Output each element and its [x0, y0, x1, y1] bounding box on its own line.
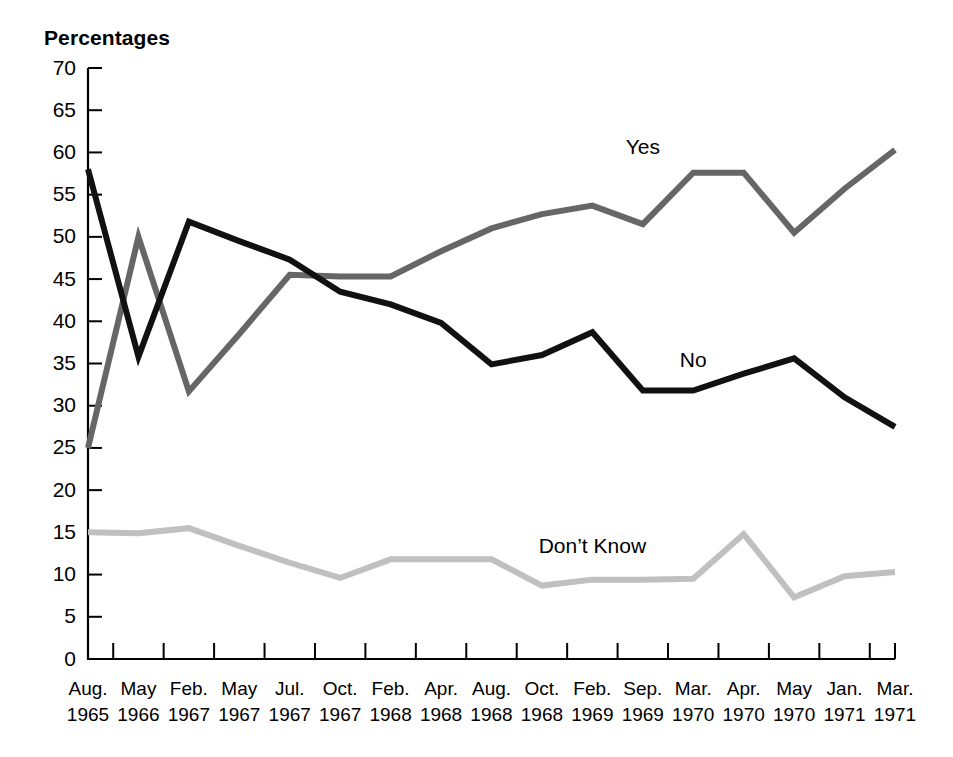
x-tick-label-year: 1970 — [773, 704, 815, 725]
x-tick-label-month: Oct. — [323, 678, 358, 699]
y-tick-label: 60 — [53, 140, 76, 163]
y-tick-label: 15 — [53, 520, 76, 543]
y-tick-label: 45 — [53, 267, 76, 290]
y-tick-label: 65 — [53, 98, 76, 121]
x-tick-label-year: 1968 — [420, 704, 462, 725]
x-tick-label-month: Feb. — [170, 678, 208, 699]
x-tick-label-month: Apr. — [727, 678, 761, 699]
x-tick-label-year: 1971 — [874, 704, 916, 725]
y-tick-label: 50 — [53, 224, 76, 247]
x-tick-label-year: 1970 — [723, 704, 765, 725]
x-axis-ticks — [88, 643, 895, 659]
y-tick-label: 0 — [64, 647, 76, 670]
x-axis-labels: Aug.1965May1966Feb.1967May1967Jul.1967Oc… — [67, 678, 916, 725]
x-tick-label-year: 1968 — [521, 704, 563, 725]
x-tick-label-month: Oct. — [525, 678, 560, 699]
y-tick-label: 35 — [53, 351, 76, 374]
y-tick-label: 25 — [53, 435, 76, 458]
y-tick-label: 10 — [53, 562, 76, 585]
y-tick-label: 70 — [53, 56, 76, 79]
x-tick-label-month: Sep. — [623, 678, 662, 699]
x-tick-label-month: Jul. — [275, 678, 305, 699]
x-tick-label-year: 1971 — [823, 704, 865, 725]
series-annotation: Yes — [626, 135, 660, 158]
y-tick-label: 5 — [64, 604, 76, 627]
y-tick-label: 40 — [53, 309, 76, 332]
x-tick-label-year: 1967 — [269, 704, 311, 725]
y-tick-label: 30 — [53, 393, 76, 416]
chart-container: Percentages 0510152025303540455055606570… — [0, 0, 953, 757]
series-annotation: No — [680, 348, 707, 371]
x-tick-label-year: 1969 — [622, 704, 664, 725]
line-chart-plot: 0510152025303540455055606570 YesNoDon’t … — [0, 0, 953, 757]
x-tick-label-year: 1970 — [672, 704, 714, 725]
y-axis-ticks: 0510152025303540455055606570 — [53, 56, 102, 670]
x-tick-label-month: May — [776, 678, 812, 699]
x-tick-label-year: 1967 — [218, 704, 260, 725]
x-tick-label-month: Mar. — [877, 678, 914, 699]
x-tick-label-month: May — [120, 678, 156, 699]
x-tick-label-month: Feb. — [573, 678, 611, 699]
x-tick-label-month: Aug. — [68, 678, 107, 699]
x-tick-label-month: Jan. — [827, 678, 863, 699]
x-tick-label-year: 1968 — [470, 704, 512, 725]
x-tick-label-year: 1967 — [319, 704, 361, 725]
data-series-group — [88, 150, 895, 597]
x-tick-label-month: May — [221, 678, 257, 699]
x-tick-label-year: 1967 — [168, 704, 210, 725]
y-tick-label: 20 — [53, 478, 76, 501]
x-tick-label-year: 1969 — [571, 704, 613, 725]
x-tick-label-month: Aug. — [472, 678, 511, 699]
series-line-don-t-know — [88, 528, 895, 597]
x-tick-label-month: Mar. — [675, 678, 712, 699]
series-line-yes — [88, 150, 895, 448]
series-annotation: Don’t Know — [539, 534, 647, 557]
x-tick-label-year: 1966 — [117, 704, 159, 725]
y-tick-label: 55 — [53, 182, 76, 205]
x-tick-label-year: 1965 — [67, 704, 109, 725]
x-tick-label-month: Apr. — [424, 678, 458, 699]
x-tick-label-year: 1968 — [369, 704, 411, 725]
x-tick-label-month: Feb. — [372, 678, 410, 699]
